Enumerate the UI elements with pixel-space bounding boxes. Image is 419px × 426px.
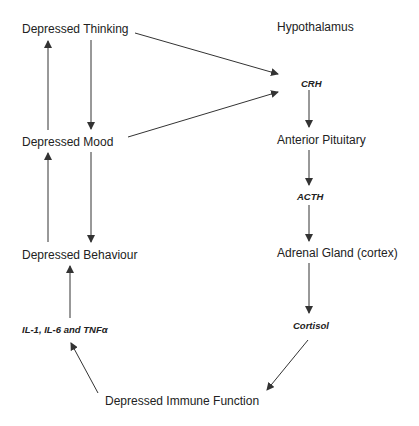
label-cortisol: Cortisol <box>293 320 329 331</box>
label-depressed-immune-function: Depressed Immune Function <box>105 394 259 408</box>
label-depressed-thinking: Depressed Thinking <box>22 22 129 36</box>
diagram-svg: Depressed Thinking Depressed Mood Depres… <box>0 0 419 426</box>
arrow-thinking-to-crh <box>135 33 278 74</box>
arrow-immune-to-cytokines <box>71 343 98 393</box>
hpa-depression-diagram: Depressed Thinking Depressed Mood Depres… <box>0 0 419 426</box>
label-acth: ACTH <box>296 191 325 202</box>
label-depressed-mood: Depressed Mood <box>22 135 113 149</box>
label-cytokines: IL-1, IL-6 and TNFα <box>22 324 109 335</box>
arrow-mood-to-crh <box>128 92 278 137</box>
label-adrenal-gland: Adrenal Gland (cortex) <box>277 246 398 260</box>
label-crh: CRH <box>301 78 323 89</box>
label-depressed-behaviour: Depressed Behaviour <box>22 248 137 262</box>
label-hypothalamus: Hypothalamus <box>277 20 354 34</box>
label-anterior-pituitary: Anterior Pituitary <box>277 133 366 147</box>
arrow-cortisol-to-immune <box>267 340 308 390</box>
